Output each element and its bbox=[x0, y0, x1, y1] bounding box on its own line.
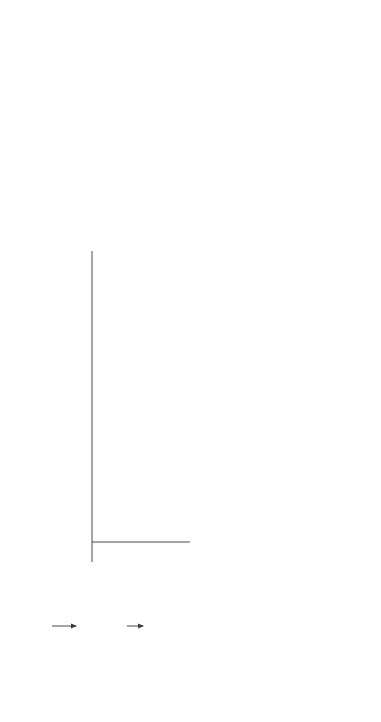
connectors bbox=[52, 251, 190, 626]
flowchart-canvas bbox=[0, 0, 381, 722]
